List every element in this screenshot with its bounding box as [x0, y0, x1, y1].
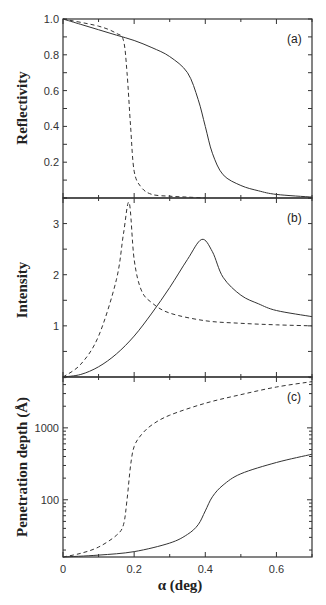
- panel-label-c: (c): [287, 390, 301, 404]
- y-tick-label: 3: [53, 218, 59, 230]
- x-axis-label: α (deg): [158, 577, 203, 594]
- y-tick-label: 100: [41, 494, 59, 506]
- panel-reflectivity: 0.20.40.60.81.0: [44, 13, 312, 198]
- panel-intensity: 123: [53, 198, 312, 377]
- y-axis-label-reflectivity: Reflectivity: [14, 71, 30, 145]
- curve-dashed: [63, 19, 205, 198]
- curve-solid: [63, 454, 312, 557]
- plot-frame: [63, 198, 312, 377]
- figure: 0.20.40.60.81.0 123 100100000.20.40.6 Re…: [0, 0, 326, 605]
- y-tick-label: 1000: [35, 422, 59, 434]
- panel-label-b: (b): [287, 211, 302, 225]
- x-tick-label: 0.6: [269, 563, 284, 575]
- curve-solid: [63, 239, 312, 377]
- y-tick-label: 0.4: [44, 120, 59, 132]
- y-tick-label: 1: [53, 320, 59, 332]
- y-tick-label: 0.2: [44, 156, 59, 168]
- y-tick-label: 0.6: [44, 85, 59, 97]
- x-tick-label: 0.2: [126, 563, 141, 575]
- y-tick-label: 0.8: [44, 49, 59, 61]
- curve-dashed: [63, 382, 312, 557]
- y-tick-label: 2: [53, 269, 59, 281]
- y-axis-label-penetration-depth: Penetration depth (Å): [14, 397, 31, 537]
- plot-frame: [63, 377, 312, 557]
- x-tick-label: 0: [60, 563, 66, 575]
- y-tick-label: 1.0: [44, 13, 59, 25]
- plot-frame: [63, 19, 312, 198]
- curve-dashed: [63, 202, 312, 377]
- panel-penetration-depth: 100100000.20.40.6: [35, 377, 312, 575]
- y-axis-label-intensity: Intensity: [14, 261, 30, 318]
- x-tick-label: 0.4: [198, 563, 213, 575]
- curve-solid: [63, 19, 312, 197]
- panel-label-a: (a): [287, 32, 302, 46]
